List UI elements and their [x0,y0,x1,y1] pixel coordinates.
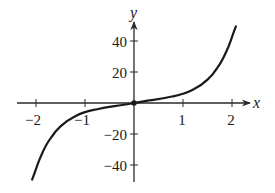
origin-point [131,100,137,106]
x-tick-label: 1 [178,112,186,128]
y-tick-label: −40 [104,158,127,174]
x-axis-label: x [252,94,260,111]
x-tick-label: 2 [227,112,235,128]
y-tick-label: −20 [104,127,127,143]
x-tick-label: −2 [25,112,41,128]
y-tick-label: 40 [112,34,127,50]
y-axis-label: y [128,4,138,22]
y-tick-label: 20 [112,65,127,81]
function-graph: −2 −1 1 2 40 20 −20 −40 x y [0,0,275,193]
